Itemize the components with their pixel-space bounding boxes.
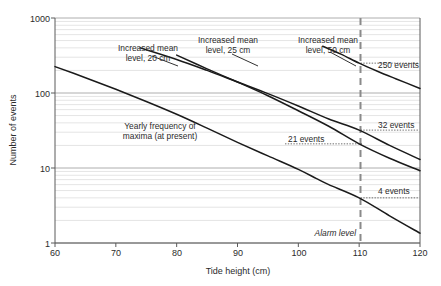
series-label-20cm-line2: level, 20 cm bbox=[126, 53, 171, 63]
x-tick-label-100: 100 bbox=[291, 248, 306, 258]
callout-label-4-events: 4 events bbox=[378, 186, 410, 196]
x-tick-label-60: 60 bbox=[50, 248, 60, 258]
callout-label-21-events: 21 events bbox=[288, 134, 324, 144]
y-tick-label-1000: 1000 bbox=[30, 14, 50, 24]
chart-container: 60 70 80 90 100 110 120 1000 100 10 1 Ti… bbox=[0, 0, 441, 286]
y-tick-label-1: 1 bbox=[45, 239, 50, 249]
x-tick-label-90: 90 bbox=[233, 248, 243, 258]
series-label-25cm-line1: Increased mean bbox=[198, 35, 258, 45]
x-tick-label-70: 70 bbox=[111, 248, 121, 258]
series-label-25cm-line2: level, 25 cm bbox=[206, 45, 251, 55]
series-label-present-line2: maxima (at present) bbox=[123, 131, 198, 141]
x-tick-label-120: 120 bbox=[412, 248, 427, 258]
series-label-present-line1: Yearly frequency of bbox=[124, 121, 196, 131]
series-label-20cm-line1: Increased mean bbox=[118, 43, 178, 53]
y-axis-title: Number of events bbox=[8, 94, 18, 166]
x-tick-label-80: 80 bbox=[172, 248, 182, 258]
alarm-level-label: Alarm level bbox=[314, 228, 358, 238]
callout-label-32-events: 32 events bbox=[378, 120, 414, 130]
y-tick-label-100: 100 bbox=[35, 89, 50, 99]
callout-label-250-events: 250 events bbox=[378, 60, 419, 70]
series-label-50cm-line2: level, 50 cm bbox=[306, 45, 351, 55]
tide-frequency-chart: 60 70 80 90 100 110 120 1000 100 10 1 Ti… bbox=[0, 0, 441, 286]
x-tick-label-110: 110 bbox=[353, 248, 367, 258]
x-axis-title: Tide height (cm) bbox=[206, 266, 271, 276]
y-tick-label-10: 10 bbox=[40, 164, 50, 174]
series-label-50cm-line1: Increased mean bbox=[298, 35, 358, 45]
